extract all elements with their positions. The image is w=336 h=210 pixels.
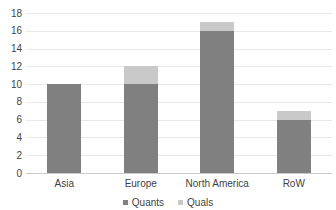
y-tick-label: 14: [0, 44, 22, 54]
y-tick-label: 10: [0, 80, 22, 90]
y-tick-label: 18: [0, 9, 22, 19]
legend-item[interactable]: Quals: [178, 197, 213, 208]
y-tick-label: 4: [0, 133, 22, 143]
bar-segment-quals[interactable]: [200, 22, 234, 31]
bar-segment-quals[interactable]: [277, 111, 311, 120]
y-tick-label: 6: [0, 115, 22, 125]
y-tick-label: 12: [0, 62, 22, 72]
bar-segment-quants[interactable]: [200, 31, 234, 173]
chart-container: 181614121086420 AsiaEuropeNorth AmericaR…: [0, 0, 336, 210]
bar-segment-quals[interactable]: [124, 66, 158, 84]
axis-baseline: [26, 173, 332, 174]
legend-item[interactable]: Quants: [123, 197, 164, 208]
x-tick-label: Europe: [125, 178, 157, 190]
bar-column[interactable]: [124, 13, 158, 173]
y-tick-label: 8: [0, 97, 22, 107]
y-tick-label: 2: [0, 151, 22, 161]
bar-segment-quants[interactable]: [47, 84, 81, 173]
bar-column[interactable]: [200, 13, 234, 173]
x-axis: AsiaEuropeNorth AmericaRoW: [26, 178, 332, 192]
y-tick-label: 16: [0, 26, 22, 36]
chart-legend: QuantsQuals: [0, 196, 336, 209]
y-tick-label: 0: [0, 169, 22, 179]
bar-segment-quants[interactable]: [124, 84, 158, 173]
bar-segment-quants[interactable]: [277, 120, 311, 173]
plot-area: [26, 13, 332, 173]
legend-label: Quals: [187, 197, 213, 208]
bar-column[interactable]: [277, 13, 311, 173]
legend-label: Quants: [132, 197, 164, 208]
y-axis: 181614121086420: [0, 13, 22, 173]
x-tick-label: North America: [186, 178, 249, 190]
legend-swatch-icon: [123, 200, 128, 205]
bar-column[interactable]: [47, 13, 81, 173]
legend-swatch-icon: [178, 200, 183, 205]
x-tick-label: Asia: [55, 178, 74, 190]
x-tick-label: RoW: [283, 178, 305, 190]
